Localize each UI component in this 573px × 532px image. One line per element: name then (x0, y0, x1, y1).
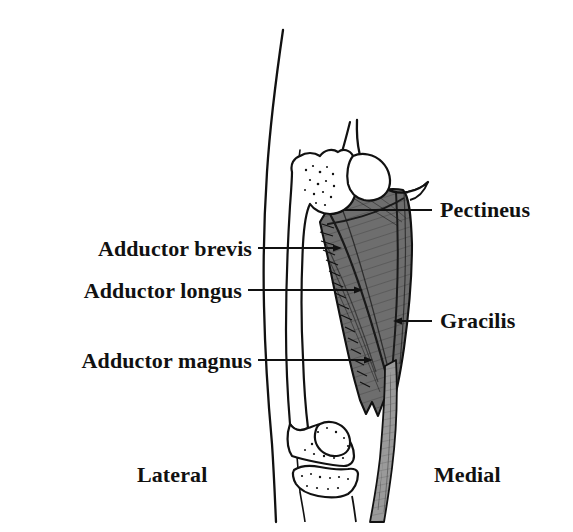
label-gracilis: Gracilis (440, 308, 515, 334)
anatomy-figure: Adductor brevis Adductor longus Adductor… (0, 0, 573, 532)
label-pectineus: Pectineus (440, 197, 530, 223)
label-adductor-brevis: Adductor brevis (0, 236, 252, 262)
label-lateral: Lateral (137, 462, 207, 488)
label-adductor-longus: Adductor longus (0, 278, 242, 304)
label-adductor-magnus: Adductor magnus (0, 348, 252, 374)
label-medial: Medial (434, 462, 501, 488)
anatomy-drawing (0, 0, 573, 532)
